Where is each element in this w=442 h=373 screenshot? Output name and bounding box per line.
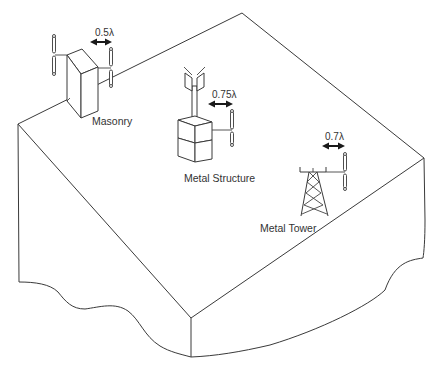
masonry-right-face: [81, 67, 98, 118]
metal-tower-spacing-label: 0.7λ: [325, 132, 344, 142]
diagram-drawing: [0, 0, 442, 373]
masonry-label: Masonry: [92, 116, 132, 127]
metal-tower-label: Metal Tower: [260, 223, 316, 234]
metal-structure-label: Metal Structure: [184, 173, 255, 184]
masonry-spacing-label: 0.5λ: [95, 28, 114, 38]
masonry-spacing-arrow-icon: [90, 39, 112, 46]
metal-structure-upper-right: [195, 122, 212, 143]
metal-structure-lower-right: [195, 140, 212, 162]
masonry-left-dipole-icon: [53, 35, 68, 76]
antenna-mounting-diagram: 0.5λ Masonry 0.75λ Metal Structure 0.7λ …: [0, 0, 442, 373]
metal-structure-spacing-label: 0.75λ: [212, 90, 236, 100]
